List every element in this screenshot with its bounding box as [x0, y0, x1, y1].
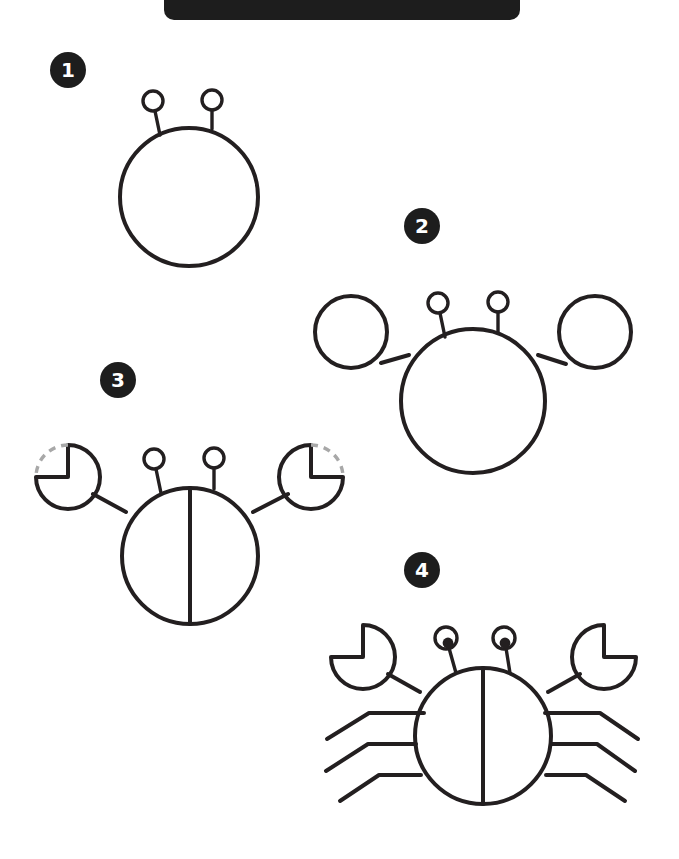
eye-stalk-right [506, 648, 510, 673]
leg-left-3 [340, 775, 421, 801]
step-3-figure [36, 445, 343, 624]
step-badge-4: 4 [404, 552, 440, 588]
pincer-left [331, 625, 395, 689]
pincer-right [572, 625, 636, 689]
leg-left-2 [326, 744, 416, 771]
step-badge-1: 1 [50, 52, 86, 88]
body-circle [122, 488, 258, 624]
step-2-figure [315, 292, 631, 473]
leg-right-3 [546, 775, 625, 801]
dashed-arc-right [311, 445, 343, 477]
pincer-right [279, 445, 343, 509]
claw-circle-right [559, 296, 631, 368]
claw-circle-left [315, 296, 387, 368]
step-1-figure [120, 90, 258, 266]
eye-circle-left [143, 91, 163, 111]
title-banner [164, 0, 520, 20]
arm-right [538, 355, 566, 364]
tutorial-sheet: 1 2 3 4 [0, 0, 679, 859]
eye-stalk-left [155, 111, 160, 135]
arm-left [93, 494, 126, 512]
step-4-figure [326, 625, 638, 804]
arm-left [388, 674, 420, 692]
leg-right-1 [545, 713, 638, 739]
drawing-canvas [0, 0, 679, 859]
eye-circle-left [435, 627, 457, 649]
eye-circle-right [204, 448, 224, 468]
arm-right [253, 494, 288, 512]
body-circle [401, 329, 545, 473]
leg-left-1 [327, 713, 424, 739]
eye-stalk-left [156, 469, 161, 493]
eye-circle-left [428, 293, 448, 313]
step-badge-3: 3 [100, 362, 136, 398]
arm-right [548, 674, 580, 692]
legs-left [326, 713, 424, 801]
eye-stalk-left [440, 313, 445, 337]
eye-circle-right [493, 627, 515, 649]
eye-stalk-left [449, 648, 456, 673]
eye-pupil-left [443, 638, 454, 649]
eye-circle-right [488, 292, 508, 312]
leg-right-2 [551, 744, 635, 771]
arm-left [381, 355, 409, 363]
pincer-left [36, 445, 100, 509]
eye-circle-right [202, 90, 222, 110]
body-circle [120, 128, 258, 266]
eye-pupil-right [500, 638, 511, 649]
legs-right [545, 713, 638, 801]
body-circle [415, 668, 551, 804]
dashed-arc-left [36, 445, 68, 477]
step-badge-2: 2 [404, 208, 440, 244]
eye-circle-left [144, 449, 164, 469]
